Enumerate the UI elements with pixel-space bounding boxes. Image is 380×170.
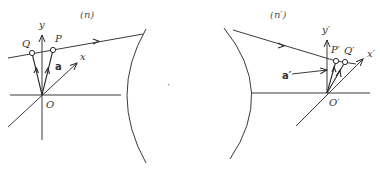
left-point-p-label: P (54, 33, 62, 44)
refraction-diagram: (n) y x Q P a O · (n′) (0, 0, 380, 170)
right-point-q (342, 59, 347, 64)
left-ray-arrow-icon (93, 39, 99, 44)
right-vector-op (327, 61, 336, 93)
right-panel-title: (n′) (270, 9, 287, 20)
right-panel: (n′) y′ x′ P′ Q′ a′ O′ (224, 9, 376, 159)
center-mark: · (167, 79, 170, 90)
left-vector-oq (32, 53, 42, 95)
right-refracting-surface (224, 28, 252, 159)
right-vector-label: a′ (282, 70, 292, 81)
left-point-q (29, 50, 34, 55)
left-point-q-label: Q (22, 38, 30, 49)
left-x-axis-label: x (80, 51, 86, 62)
right-ray-arrow-icon (278, 43, 284, 48)
right-vector-pointer-arrow-icon (292, 70, 327, 74)
left-panel: (n) y x Q P a O (8, 9, 146, 163)
right-point-p (333, 58, 338, 63)
right-point-p-label: P′ (330, 44, 341, 55)
left-origin-label: O (46, 99, 54, 110)
right-x-axis-label: x′ (367, 48, 376, 59)
left-vector-op (42, 50, 53, 95)
left-panel-title: (n) (80, 9, 94, 20)
right-vector-oq (327, 62, 345, 93)
right-y-axis-label: y′ (321, 24, 331, 35)
right-ray (233, 30, 336, 61)
left-vector-label: a (55, 61, 62, 72)
left-refracting-surface (127, 29, 146, 163)
left-y-axis-label: y (38, 19, 45, 30)
right-point-q-label: Q′ (344, 45, 355, 56)
right-origin-label: O′ (329, 97, 340, 108)
left-point-p (50, 47, 55, 52)
